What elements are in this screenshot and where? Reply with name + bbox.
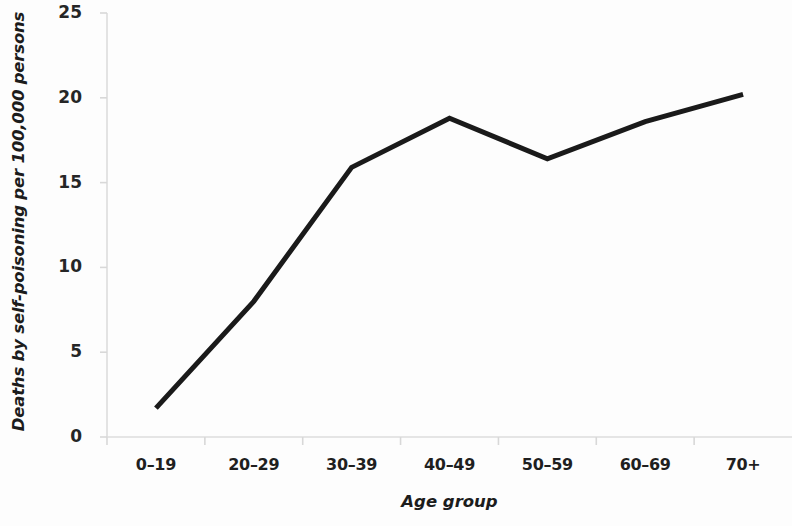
x-axis-ticks (107, 437, 694, 445)
x-axis-tick-label: 30–39 (302, 455, 402, 474)
line-chart: Deaths by self-poisoning per 100,000 per… (0, 0, 792, 526)
x-axis-tick-label: 50–59 (497, 455, 597, 474)
x-axis-tick-label: 60–69 (595, 455, 695, 474)
x-axis-tick-label: 0–19 (106, 455, 206, 474)
x-axis-tick-label: 20–29 (204, 455, 304, 474)
plot-area (0, 0, 792, 526)
data-series-line (156, 94, 743, 408)
x-axis-tick-label: 70+ (693, 455, 792, 474)
x-axis-title: Age group (107, 492, 792, 511)
x-axis-tick-label: 40–49 (400, 455, 500, 474)
y-axis-ticks (100, 13, 107, 437)
